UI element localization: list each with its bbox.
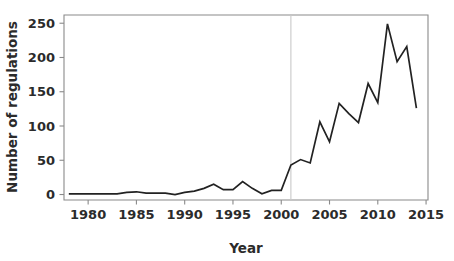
x-tick-label-2005: 2005 (311, 207, 347, 222)
y-tick-label-250: 250 (28, 16, 55, 31)
x-tick-label-2000: 2000 (263, 207, 299, 222)
chart-figure: 19801985199019952000200520102015 0501001… (0, 0, 454, 261)
x-axis-tickmarks (88, 200, 426, 205)
y-tick-label-150: 150 (28, 84, 55, 99)
x-axis-tick-labels: 19801985199019952000200520102015 (70, 207, 444, 222)
x-tick-label-1995: 1995 (215, 207, 251, 222)
y-tick-label-0: 0 (46, 187, 55, 202)
x-axis-title: Year (228, 240, 263, 256)
y-axis-tickmarks (60, 23, 65, 194)
y-axis-title: Number of regulations (4, 21, 20, 193)
line-chart: 19801985199019952000200520102015 0501001… (0, 0, 454, 261)
x-tick-label-2015: 2015 (408, 207, 444, 222)
y-axis-tick-labels: 050100150200250 (28, 16, 55, 202)
y-tick-label-50: 50 (37, 153, 55, 168)
x-tick-label-1990: 1990 (167, 207, 203, 222)
x-tick-label-2010: 2010 (360, 207, 396, 222)
y-tick-label-200: 200 (28, 50, 55, 65)
x-tick-label-1985: 1985 (118, 207, 154, 222)
x-tick-label-1980: 1980 (70, 207, 106, 222)
y-tick-label-100: 100 (28, 119, 55, 134)
plot-background (64, 15, 428, 200)
plot-frame (64, 15, 428, 200)
